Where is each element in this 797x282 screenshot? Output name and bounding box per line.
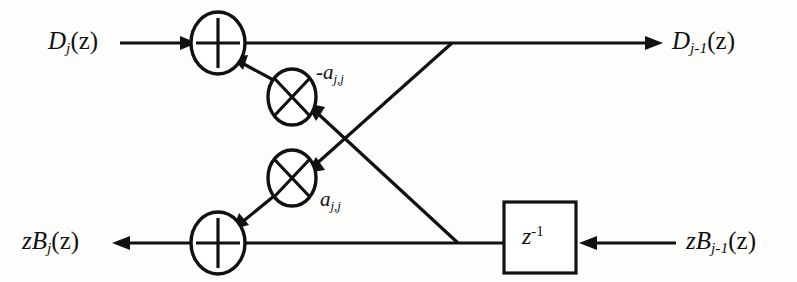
label-coefficient-positive: aj,j [320, 189, 341, 212]
wire-input-top [120, 36, 197, 50]
multiplier-upper [268, 69, 316, 125]
signal-flow-diagram: Dj(z) Dj-1(z) zBj(z) zBj-1(z) -aj,j aj,j… [0, 0, 797, 282]
adder-bottom [191, 212, 245, 274]
multiplier-lower [268, 150, 316, 206]
arrowhead-output-bottom [112, 236, 130, 250]
wire-output-bottom [112, 236, 197, 250]
adder-top [191, 12, 245, 74]
label-input-bottom: zBj-1(z) [686, 228, 756, 256]
arrowhead-output-top [645, 36, 663, 50]
wire-input-bottom [579, 236, 676, 250]
arrowhead-into-delay-block [579, 236, 597, 250]
wire-feedback-up [306, 103, 458, 243]
label-delay-block: z-1 [522, 224, 544, 248]
label-coefficient-negative: -aj,j [316, 62, 344, 85]
label-output-top: Dj-1(z) [672, 28, 735, 56]
label-input-top: Dj(z) [48, 28, 98, 56]
label-output-bottom: zBj(z) [22, 228, 79, 256]
